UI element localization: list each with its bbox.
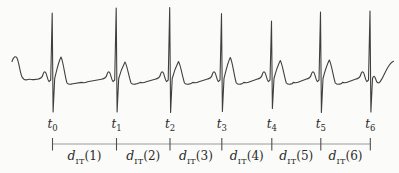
interval-index: (2) — [143, 149, 160, 163]
time-label-t0: t0 — [47, 118, 57, 130]
interval-symbol: d — [68, 148, 76, 163]
time-label-t5: t5 — [316, 118, 326, 130]
time-subscript: 3 — [222, 123, 227, 133]
interval-subscript: IT — [238, 156, 247, 165]
interval-index: (5) — [296, 149, 313, 163]
interval-label-5: dIT(5) — [279, 150, 313, 163]
time-label-t6: t6 — [365, 118, 375, 130]
interval-index: (1) — [84, 149, 101, 163]
interval-label-4: dIT(4) — [230, 150, 264, 163]
time-label-t3: t3 — [217, 118, 227, 130]
time-subscript: 1 — [116, 123, 121, 133]
interval-subscript: IT — [337, 156, 346, 165]
time-subscript: 6 — [370, 123, 375, 133]
interval-index: (4) — [247, 149, 264, 163]
interval-symbol: d — [179, 148, 187, 163]
interval-subscript: IT — [134, 156, 143, 165]
time-label-t2: t2 — [165, 118, 175, 130]
ecg-interbeat-interval-figure: t0t1t2t3t4t5t6dIT(1)dIT(2)dIT(3)dIT(4)dI… — [0, 0, 399, 173]
interval-symbol: d — [329, 148, 337, 163]
figure-canvas — [0, 0, 399, 173]
interval-index: (3) — [196, 149, 213, 163]
interval-index: (6) — [346, 149, 363, 163]
interval-label-1: dIT(1) — [68, 150, 102, 163]
interval-subscript: IT — [76, 156, 85, 165]
interval-symbol: d — [126, 148, 134, 163]
interval-label-6: dIT(6) — [329, 150, 363, 163]
time-label-t4: t4 — [267, 118, 277, 130]
time-subscript: 5 — [321, 123, 326, 133]
interval-label-2: dIT(2) — [126, 150, 160, 163]
interval-symbol: d — [279, 148, 287, 163]
time-subscript: 2 — [170, 123, 175, 133]
time-subscript: 4 — [272, 123, 277, 133]
time-label-t1: t1 — [111, 118, 121, 130]
ecg-waveform-trace — [12, 8, 394, 113]
interval-subscript: IT — [187, 156, 196, 165]
interval-subscript: IT — [287, 156, 296, 165]
interval-label-3: dIT(3) — [179, 150, 213, 163]
time-subscript: 0 — [52, 123, 57, 133]
interval-symbol: d — [230, 148, 238, 163]
